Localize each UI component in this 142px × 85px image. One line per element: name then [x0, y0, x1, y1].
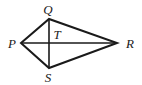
vertex-label-r: R [125, 36, 134, 51]
kite-diagram: Q R S P T [0, 0, 142, 85]
vertex-label-q: Q [43, 2, 53, 17]
vertex-label-s: S [45, 70, 52, 85]
vertex-label-p: P [7, 36, 16, 51]
intersection-label-t: T [53, 27, 61, 42]
